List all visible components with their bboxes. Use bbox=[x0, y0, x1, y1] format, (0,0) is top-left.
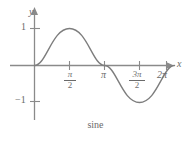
y-axis-label: y bbox=[29, 7, 33, 17]
x-tick-label-3pi-over-2: 3π 2 bbox=[129, 70, 145, 91]
y-tick-label-1: 1 bbox=[21, 22, 26, 32]
x-axis-label: x bbox=[177, 59, 181, 69]
pi-over-2-denominator: 2 bbox=[64, 81, 76, 90]
x-tick-label-pi: π bbox=[101, 70, 106, 80]
figure-caption: sine bbox=[0, 120, 191, 130]
x-tick-label-2pi: 2π bbox=[157, 70, 167, 80]
three-pi-over-2-denominator: 2 bbox=[129, 81, 145, 90]
y-axis bbox=[31, 7, 38, 120]
pi-over-2-numerator: π bbox=[64, 70, 76, 79]
sine-function-figure: y x 1 −1 π 2 π 3π 2 2π sine bbox=[0, 0, 191, 141]
x-tick-label-pi-over-2: π 2 bbox=[64, 70, 76, 91]
y-tick-label-neg-1: −1 bbox=[15, 95, 26, 105]
three-pi-over-2-numerator: 3π bbox=[129, 70, 145, 79]
